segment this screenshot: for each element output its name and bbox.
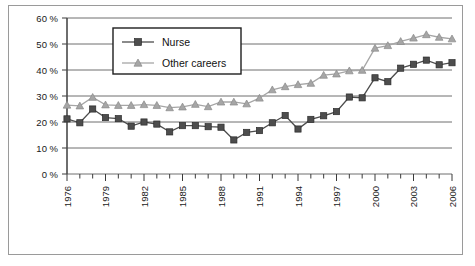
legend-marker — [135, 39, 142, 46]
data-point-marker — [308, 116, 314, 122]
x-tick-label: 1997 — [331, 186, 342, 207]
y-tick-label: 40 % — [36, 65, 58, 76]
data-point-marker — [423, 31, 431, 38]
data-point-marker — [77, 120, 83, 126]
chart-legend: NurseOther careers — [113, 28, 241, 74]
data-point-marker — [231, 137, 237, 143]
data-point-marker — [179, 123, 185, 129]
data-point-marker — [90, 106, 96, 112]
x-tick-label: 1979 — [100, 186, 111, 207]
data-point-marker — [333, 109, 339, 115]
x-tick-label: 1976 — [62, 186, 73, 207]
data-point-marker — [359, 95, 365, 101]
data-point-marker — [423, 57, 429, 63]
y-tick-label: 50 % — [36, 39, 58, 50]
chart-frame: 0 %10 %20 %30 %40 %50 %60 %1976197919821… — [8, 5, 463, 255]
x-tick-label: 1994 — [293, 186, 304, 207]
data-point-marker — [321, 113, 327, 119]
y-tick-label: 20 % — [36, 117, 58, 128]
data-point-marker — [89, 94, 97, 101]
data-point-marker — [244, 129, 250, 135]
data-point-marker — [256, 127, 262, 133]
x-tick-label: 2006 — [447, 186, 458, 207]
data-point-marker — [295, 126, 301, 132]
x-tick-label: 2000 — [370, 186, 381, 207]
data-point-marker — [192, 123, 198, 129]
y-tick-label: 10 % — [36, 143, 58, 154]
legend-label: Other careers — [162, 57, 226, 69]
data-point-marker — [128, 123, 134, 129]
y-tick-label: 60 % — [36, 13, 58, 24]
y-tick-label: 30 % — [36, 91, 58, 102]
data-point-marker — [346, 94, 352, 100]
data-point-marker — [269, 120, 275, 126]
data-point-marker — [398, 65, 404, 71]
x-tick-label: 1988 — [216, 186, 227, 207]
y-tick-label: 0 % — [42, 169, 59, 180]
data-point-marker — [167, 129, 173, 135]
legend-label: Nurse — [162, 36, 190, 48]
data-point-marker — [410, 61, 416, 67]
data-point-marker — [385, 79, 391, 85]
data-point-marker — [436, 62, 442, 68]
data-point-marker — [218, 124, 224, 130]
x-tick-label: 1991 — [254, 186, 265, 207]
data-point-marker — [205, 124, 211, 130]
x-tick-label: 1982 — [139, 186, 150, 207]
data-point-marker — [64, 116, 70, 122]
data-point-marker — [282, 112, 288, 118]
data-point-marker — [256, 94, 264, 101]
data-point-marker — [115, 116, 121, 122]
line-chart: 0 %10 %20 %30 %40 %50 %60 %1976197919821… — [9, 6, 464, 256]
x-tick-label: 2003 — [408, 186, 419, 207]
data-point-marker — [372, 75, 378, 81]
data-point-marker — [449, 60, 455, 66]
data-point-marker — [102, 114, 108, 120]
x-tick-label: 1985 — [177, 186, 188, 207]
data-point-marker — [192, 101, 200, 108]
data-point-marker — [154, 121, 160, 127]
data-point-marker — [141, 119, 147, 125]
